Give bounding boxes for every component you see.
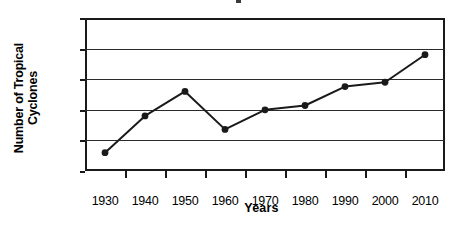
y-axis-title-line2: Cyclones	[26, 71, 40, 125]
data-point-marker	[262, 106, 269, 113]
data-point-marker	[382, 79, 389, 86]
cropped-title-remnant	[236, 0, 241, 3]
data-point-marker	[182, 88, 189, 95]
y-axis-tick	[80, 171, 85, 173]
data-point-marker	[222, 126, 229, 133]
x-axis-title: Years	[0, 201, 457, 215]
data-point-marker	[142, 113, 149, 120]
data-point-marker	[302, 102, 309, 109]
plot-area: 0510152025 19301940195019601970198019902…	[85, 18, 445, 171]
data-point-marker	[102, 149, 109, 156]
x-axis-tick	[205, 171, 207, 178]
data-point-marker	[342, 83, 349, 90]
y-axis-title: Number of TropicalCyclones	[12, 23, 40, 173]
x-axis-tick	[365, 171, 367, 178]
y-axis-title-line1: Number of Tropical	[12, 43, 26, 153]
chart-container: Number of TropicalCyclones 0510152025 19…	[0, 0, 457, 225]
x-axis-tick	[285, 171, 287, 178]
x-axis-tick	[405, 171, 407, 178]
x-axis-tick	[245, 171, 247, 178]
x-axis-tick	[125, 171, 127, 178]
data-point-marker	[422, 51, 429, 58]
x-axis-title-label: Years	[178, 201, 278, 215]
x-axis-tick	[325, 171, 327, 178]
x-axis-tick	[165, 171, 167, 178]
series-polyline	[105, 55, 425, 153]
data-series-line	[85, 18, 445, 171]
